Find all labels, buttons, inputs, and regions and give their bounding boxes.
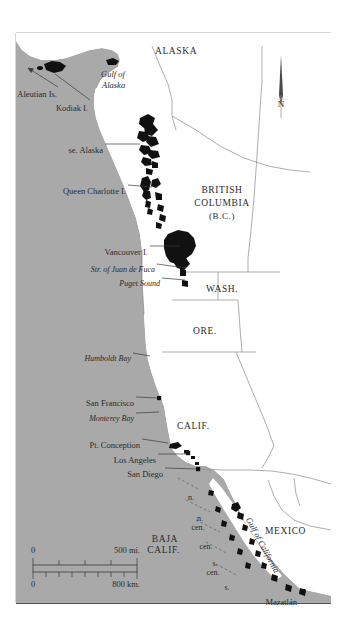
water-label-alaska: Alaska bbox=[102, 81, 125, 90]
place-label-vancouver-i: Vancouver I. bbox=[105, 248, 148, 257]
city-dot-los-angeles bbox=[186, 451, 190, 455]
region-label-alaska: ALASKA bbox=[155, 47, 197, 57]
map-figure: ALASKABRITISHCOLUMBIA(B.C.)WASH.ORE.CALI… bbox=[0, 0, 339, 642]
region-label-columbia: COLUMBIA bbox=[194, 199, 249, 209]
city-dot-san-francisco bbox=[157, 396, 161, 400]
baja-subdivision-label-3: cen. bbox=[199, 543, 212, 551]
scale-km-max: 800 km. bbox=[112, 580, 140, 589]
scale-km-zero: 0 bbox=[31, 580, 35, 589]
place-label-se-alaska: se. Alaska bbox=[69, 146, 103, 155]
scale-miles-zero: 0 bbox=[31, 546, 35, 555]
place-label-san-francisco: San Francisco bbox=[86, 399, 134, 408]
place-label-monterey-bay: Monterey Bay bbox=[89, 415, 134, 423]
region-label-wash: WASH. bbox=[206, 285, 238, 295]
region-label-b-c: (B.C.) bbox=[209, 212, 235, 221]
baja-subdivision-label-4: s. bbox=[212, 560, 217, 568]
place-label-pt-conception: Pt. Conception bbox=[89, 441, 140, 450]
water-label-gulf-of: Gulf of bbox=[101, 70, 125, 79]
place-label-aleutian-is: Aleutian Is. bbox=[17, 90, 57, 99]
place-label-queen-charlotte-i: Queen Charlotte I. bbox=[63, 187, 126, 196]
baja-subdivision-label-0: n. bbox=[188, 494, 194, 502]
baja-subdivision-label-1: n. bbox=[197, 515, 203, 523]
north-arrow-label: N bbox=[278, 100, 285, 109]
region-label-british: BRITISH bbox=[201, 186, 242, 196]
region-label-calif: CALIF. bbox=[177, 422, 210, 432]
baja-subdivision-label-2: cen. bbox=[191, 524, 204, 532]
place-label-humboldt-bay: Humboldt Bay bbox=[85, 355, 131, 363]
place-label-mazatl-n: Mazatlán bbox=[265, 598, 297, 607]
place-label-kodiak-i: Kodiak I. bbox=[56, 104, 88, 113]
region-label-mexico: MEXICO bbox=[265, 527, 306, 537]
baja-subdivision-label-5: cen. bbox=[206, 569, 219, 577]
place-label-los-angeles: Los Angeles bbox=[114, 456, 156, 465]
region-label-calif: CALIF. bbox=[147, 546, 180, 556]
baja-subdivision-label-6: s. bbox=[224, 584, 229, 592]
place-label-puget-sound: Puget Sound bbox=[119, 280, 160, 288]
city-dot-mazatl-n bbox=[301, 589, 305, 593]
city-dot-san-diego bbox=[196, 467, 200, 471]
place-label-str-of-juan-de-fuca: Str. of Juan de Fuca bbox=[91, 266, 155, 274]
place-label-san-diego: San Diego bbox=[127, 470, 163, 479]
region-label-baja: BAJA bbox=[152, 535, 178, 545]
scale-miles-max: 500 mi. bbox=[114, 546, 140, 555]
region-label-ore: ORE. bbox=[193, 327, 217, 337]
